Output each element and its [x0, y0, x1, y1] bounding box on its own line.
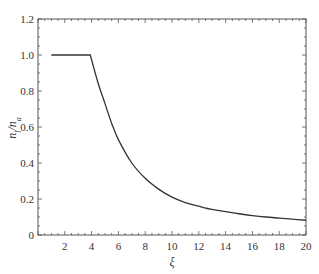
- y-tick-label: 0.4: [20, 157, 34, 169]
- x-tick-label: 20: [301, 240, 313, 252]
- x-tick-label: 12: [193, 240, 204, 252]
- y-tick-label: 0: [29, 229, 35, 241]
- x-tick-label: 16: [247, 240, 259, 252]
- data-series: [51, 55, 306, 220]
- x-tick-label: 10: [167, 240, 179, 252]
- x-tick-label: 6: [116, 240, 122, 252]
- chart: 2468101214161820 00.20.40.60.81.01.2 ξ n…: [0, 0, 319, 274]
- y-tick-label: 1.0: [20, 49, 34, 61]
- y-axis-ticks: 00.20.40.60.81.01.2: [20, 13, 306, 241]
- x-tick-label: 8: [142, 240, 148, 252]
- x-tick-label: 2: [62, 240, 68, 252]
- y-tick-label: 0.2: [20, 193, 34, 205]
- plot-frame: [38, 19, 306, 235]
- y-tick-label: 1.2: [20, 13, 34, 25]
- series-line: [51, 55, 306, 220]
- x-tick-label: 4: [89, 240, 95, 252]
- y-tick-label: 0.8: [20, 85, 34, 97]
- x-axis-label: ξ: [169, 255, 175, 269]
- x-tick-label: 14: [220, 240, 232, 252]
- x-tick-label: 18: [274, 240, 286, 252]
